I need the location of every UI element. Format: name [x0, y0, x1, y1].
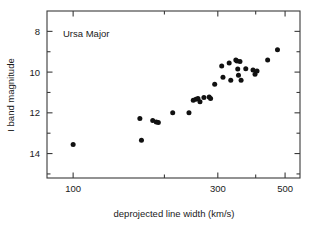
data-point: [220, 75, 225, 80]
data-point: [137, 116, 142, 121]
y-tick-label: 10: [29, 67, 40, 78]
data-point: [156, 120, 161, 125]
figure-background: [0, 0, 320, 228]
x-tick-label: 100: [65, 183, 81, 194]
y-tick-label: 14: [29, 148, 40, 159]
data-point: [243, 66, 248, 71]
data-point: [139, 138, 144, 143]
data-point: [170, 110, 175, 115]
data-point: [239, 78, 244, 83]
data-point: [186, 110, 191, 115]
data-point: [228, 78, 233, 83]
scatter-plot: 100300500 8101214 deprojected line width…: [0, 0, 320, 228]
y-tick-label: 12: [29, 107, 40, 118]
data-point: [255, 69, 260, 74]
plot-annotation-label: Ursa Major: [63, 28, 109, 39]
data-point: [212, 82, 217, 87]
figure-container: 100300500 8101214 deprojected line width…: [0, 0, 320, 228]
y-tick-label: 8: [35, 26, 40, 37]
x-tick-label: 500: [277, 183, 293, 194]
data-point: [275, 47, 280, 52]
data-point: [208, 96, 213, 101]
data-point: [201, 95, 206, 100]
x-axis-title: deprojected line width (km/s): [114, 208, 235, 219]
data-point: [236, 73, 241, 78]
y-axis-title: I band magnitude: [5, 58, 16, 131]
data-point: [235, 67, 240, 72]
data-point: [265, 57, 270, 62]
data-point: [219, 63, 224, 68]
x-tick-label: 300: [210, 183, 226, 194]
data-point: [197, 99, 202, 104]
data-point: [237, 59, 242, 64]
data-point: [71, 142, 76, 147]
data-point: [227, 60, 232, 65]
